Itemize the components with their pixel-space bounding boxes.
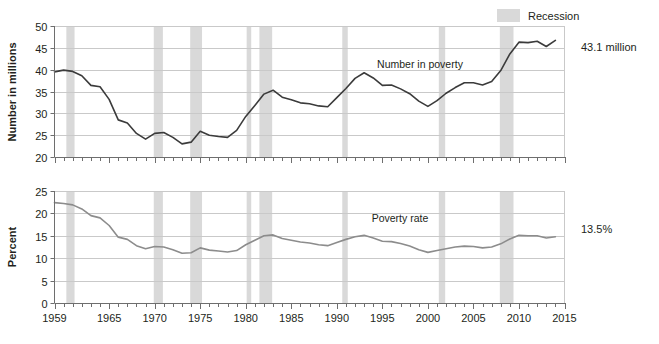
x-tick-label: 1970 [142, 312, 166, 324]
y-tick-label: 35 [35, 87, 47, 99]
recession-legend-label: Recession [528, 10, 579, 22]
poverty-rate-line [55, 203, 556, 254]
y-tick-label: 10 [35, 253, 47, 265]
bottom-recession-bands [66, 191, 513, 303]
bottom-y-tick-labels: 0510152025 [35, 186, 47, 310]
y-tick-label: 0 [41, 298, 47, 310]
recession-legend-swatch [497, 9, 520, 22]
x-tick-label: 2000 [416, 312, 440, 324]
y-tick-label: 5 [41, 276, 47, 288]
x-tick-label: 2015 [552, 312, 576, 324]
y-tick-label: 25 [35, 186, 47, 198]
panel-number-in-poverty: 20253035404550 Number in millions Number… [6, 21, 637, 164]
recession-band [500, 26, 514, 157]
x-tick-label: 1995 [370, 312, 394, 324]
number-in-poverty-end-label: 43.1 million [581, 41, 637, 53]
x-tick-label: 2005 [461, 312, 485, 324]
recession-band [247, 26, 252, 157]
y-tick-label: 20 [35, 208, 47, 220]
y-tick-label: 20 [35, 152, 47, 164]
recession-band [342, 191, 347, 303]
x-tick-label: 1959 [42, 312, 66, 324]
recession-band [439, 26, 445, 157]
legend: Recession [497, 9, 579, 22]
poverty-rate-series-label: Poverty rate [372, 212, 429, 224]
x-axis-tick-labels: 1959196519701975198019851990199520002005… [42, 312, 576, 324]
recession-band [259, 191, 272, 303]
recession-band [439, 191, 445, 303]
poverty-rate-end-label: 13.5% [581, 223, 612, 235]
panel-poverty-rate: 0510152025 Percent Poverty rate 13.5% 19… [6, 186, 612, 325]
top-y-axis-title: Number in millions [6, 42, 18, 141]
top-y-tick-labels: 20253035404550 [35, 21, 47, 164]
x-tick-label: 2010 [507, 312, 531, 324]
recession-band [500, 191, 514, 303]
bottom-y-axis-title: Percent [6, 226, 18, 267]
recession-band [66, 191, 74, 303]
x-tick-label: 1980 [234, 312, 258, 324]
x-tick-label: 1985 [279, 312, 303, 324]
y-tick-label: 50 [35, 21, 47, 33]
recession-band [66, 26, 74, 157]
recession-band [154, 26, 163, 157]
y-tick-label: 15 [35, 231, 47, 243]
x-tick-label: 1975 [188, 312, 212, 324]
y-tick-label: 25 [35, 130, 47, 142]
top-recession-bands [66, 26, 513, 157]
recession-band [247, 191, 252, 303]
chart-canvas: Recession 20253035404550 Number in milli… [0, 0, 659, 344]
x-tick-label: 1990 [325, 312, 349, 324]
y-tick-label: 45 [35, 43, 47, 55]
y-tick-label: 40 [35, 65, 47, 77]
number-in-poverty-series-label: Number in poverty [377, 58, 464, 70]
poverty-figure: Recession 20253035404550 Number in milli… [0, 0, 659, 344]
recession-band [190, 191, 202, 303]
x-tick-label: 1965 [97, 312, 121, 324]
top-gridlines [51, 27, 565, 158]
y-tick-label: 30 [35, 108, 47, 120]
